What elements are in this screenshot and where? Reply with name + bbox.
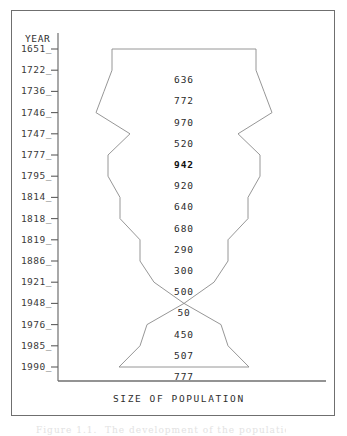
data-value-label: 50 [164,307,204,318]
plot-area: YEAR 1651_1722_6361736_7721746_9701747_5… [12,11,334,415]
x-axis-title: SIZE OF POPULATION [113,393,245,404]
data-value-label: 636 [164,74,204,85]
y-axis-year-label: 1985_ [12,340,52,351]
y-axis-year-label: 1736_ [12,85,52,96]
y-axis-year-label: 1777_ [12,149,52,160]
y-axis-year-label: 1948_ [12,297,52,308]
data-value-label: 520 [164,138,204,149]
figure-caption-partial: Figure 1.1. The development of the popul… [36,425,286,435]
y-axis-year-label: 1976_ [12,319,52,330]
data-value-label: 772 [164,95,204,106]
data-value-label: 450 [164,329,204,340]
y-axis-year-label: 1819_ [12,234,52,245]
data-value-label: 920 [164,180,204,191]
data-value-label: 290 [164,244,204,255]
data-value-label: 942 [164,159,204,170]
data-value-label: 300 [164,265,204,276]
y-axis-year-label: 1746_ [12,107,52,118]
y-axis-year-label: 1921_ [12,276,52,287]
y-axis-year-label: 1990_ [12,361,52,372]
y-axis-year-label: 1814_ [12,191,52,202]
y-axis-year-label: 1651_ [12,43,52,54]
y-axis-year-label: 1818_ [12,213,52,224]
data-value-label: 680 [164,223,204,234]
page-canvas: YEAR 1651_1722_6361736_7721746_9701747_5… [0,0,347,436]
data-value-label: 777 [164,371,204,382]
data-value-label: 507 [164,350,204,361]
y-axis-year-label: 1886_ [12,255,52,266]
y-axis-year-label: 1795_ [12,170,52,181]
data-value-label: 970 [164,117,204,128]
y-axis-year-label: 1722_ [12,64,52,75]
data-value-label: 500 [164,286,204,297]
y-axis-ticks [51,49,58,367]
y-axis-year-label: 1747_ [12,128,52,139]
data-value-label: 640 [164,201,204,212]
figure-frame: YEAR 1651_1722_6361736_7721746_9701747_5… [11,10,335,416]
